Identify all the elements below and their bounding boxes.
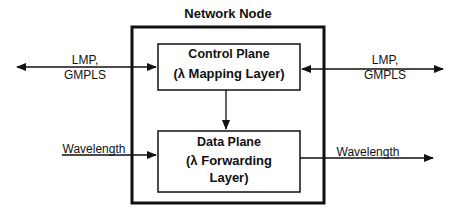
left-signal-label-2: GMPLS (55, 68, 115, 82)
network-node-title: Network Node (132, 6, 324, 21)
left-wavelength-label: Wavelength (60, 142, 128, 156)
data-plane-title: Data Plane (158, 135, 300, 149)
left-signal-label-1: LMP, (55, 53, 115, 67)
right-signal-label-2: GMPLS (355, 68, 415, 82)
right-wavelength-label: Wavelength (334, 145, 402, 159)
right-signal-label-1: LMP, (355, 53, 415, 67)
control-plane-subtitle: (λ Mapping Layer) (158, 66, 300, 81)
control-plane-title: Control Plane (158, 47, 300, 61)
data-plane-subtitle: (λ Forwarding (158, 153, 300, 168)
data-plane-subtitle-2: Layer) (158, 170, 300, 185)
